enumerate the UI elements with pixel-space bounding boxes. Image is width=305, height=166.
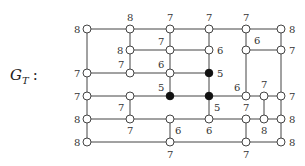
graph-node bbox=[277, 115, 285, 123]
node-label: 7 bbox=[289, 45, 295, 56]
node-label: 7 bbox=[118, 59, 124, 70]
node-label: 7 bbox=[261, 79, 267, 90]
graph-node bbox=[277, 138, 285, 146]
graph-node bbox=[277, 92, 285, 100]
graph-node bbox=[166, 69, 174, 77]
node-label: 7 bbox=[289, 91, 295, 102]
node-label: 7 bbox=[167, 12, 173, 23]
graph-diagram: 887778876677765775567787667888778 bbox=[0, 0, 305, 166]
graph-node bbox=[205, 115, 213, 123]
node-label: 7 bbox=[74, 91, 80, 102]
node-label: 7 bbox=[127, 125, 133, 136]
node-label: 8 bbox=[117, 45, 123, 56]
graph-node bbox=[83, 138, 91, 146]
node-label: 8 bbox=[74, 24, 80, 35]
graph-node-filled bbox=[205, 69, 213, 77]
graph-node bbox=[126, 92, 134, 100]
node-label: 8 bbox=[289, 114, 295, 125]
node-label: 7 bbox=[243, 12, 249, 23]
node-label: 7 bbox=[167, 149, 173, 160]
graph-node bbox=[242, 92, 250, 100]
graph-node bbox=[166, 46, 174, 54]
node-label: 6 bbox=[158, 59, 164, 70]
node-label: 6 bbox=[234, 82, 240, 93]
graph-node bbox=[83, 92, 91, 100]
graph-node bbox=[242, 46, 250, 54]
label-layer: 887778876677765775567787667888778 bbox=[74, 12, 295, 160]
graph-node bbox=[126, 115, 134, 123]
node-label: 7 bbox=[158, 36, 164, 47]
graph-node bbox=[242, 25, 250, 33]
node-label: 8 bbox=[74, 114, 80, 125]
node-label: 8 bbox=[74, 137, 80, 148]
graph-node bbox=[126, 25, 134, 33]
graph-node bbox=[83, 25, 91, 33]
graph-node bbox=[166, 115, 174, 123]
graph-node bbox=[277, 46, 285, 54]
node-label: 7 bbox=[243, 102, 249, 113]
node-label: 6 bbox=[206, 125, 212, 136]
node-label: 7 bbox=[243, 149, 249, 160]
node-label: 8 bbox=[289, 137, 295, 148]
node-label: 8 bbox=[261, 125, 267, 136]
node-label: 8 bbox=[289, 24, 295, 35]
graph-node-filled bbox=[205, 92, 213, 100]
graph-node bbox=[260, 115, 268, 123]
node-label: 6 bbox=[175, 125, 181, 136]
graph-node bbox=[126, 69, 134, 77]
node-label: 7 bbox=[118, 102, 124, 113]
graph-node bbox=[166, 138, 174, 146]
graph-node-filled bbox=[166, 92, 174, 100]
graph-node bbox=[242, 138, 250, 146]
graph-node bbox=[83, 69, 91, 77]
node-label: 7 bbox=[206, 12, 212, 23]
graph-node bbox=[166, 25, 174, 33]
node-label: 5 bbox=[158, 82, 164, 93]
graph-node bbox=[260, 92, 268, 100]
graph-node bbox=[83, 115, 91, 123]
node-label: 8 bbox=[127, 12, 133, 23]
graph-node bbox=[205, 46, 213, 54]
graph-node bbox=[205, 25, 213, 33]
graph-node bbox=[126, 46, 134, 54]
graph-node bbox=[277, 25, 285, 33]
node-label: 5 bbox=[214, 102, 220, 113]
node-label: 6 bbox=[217, 45, 223, 56]
node-label: 6 bbox=[254, 35, 260, 46]
graph-node bbox=[242, 115, 250, 123]
node-label: 5 bbox=[217, 68, 223, 79]
node-label: 7 bbox=[74, 68, 80, 79]
